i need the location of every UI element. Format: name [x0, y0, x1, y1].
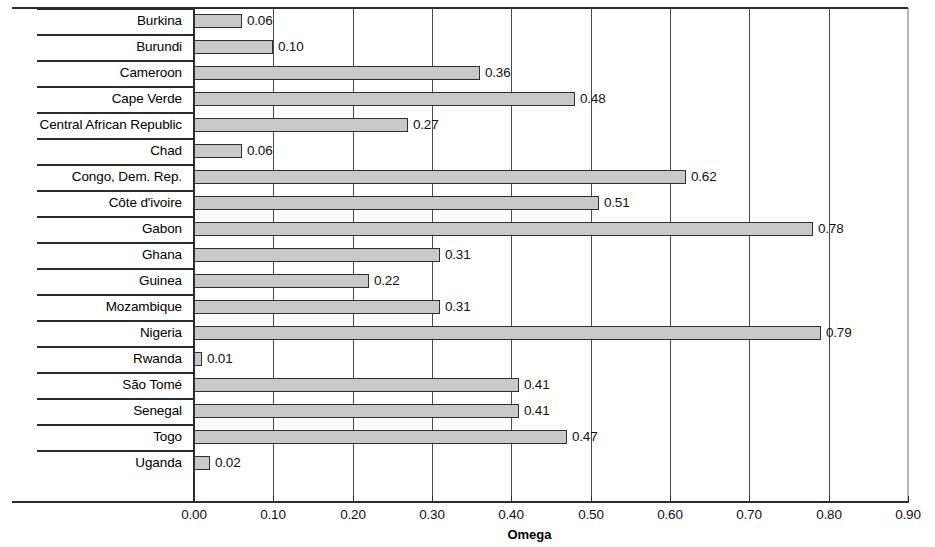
bar: [194, 456, 210, 470]
bar: [194, 144, 242, 158]
category-label: São Tomé: [0, 372, 182, 398]
bar-row: Congo, Dem. Rep.0.62: [0, 164, 935, 190]
bar-value-label: 0.62: [686, 164, 716, 190]
bar-row: Cameroon0.36: [0, 60, 935, 86]
bar: [194, 404, 519, 418]
category-label: Ghana: [0, 242, 182, 268]
bar: [194, 274, 369, 288]
x-axis-tick-label: 0.00: [159, 507, 229, 522]
bar-row: Uganda0.02: [0, 450, 935, 476]
x-axis-tick: [670, 496, 671, 503]
category-label: Cape Verde: [0, 86, 182, 112]
category-label: Burkina: [0, 8, 182, 34]
bar-row: Burkina0.06: [0, 8, 935, 34]
x-axis-title-text: Omega: [507, 527, 551, 542]
bar: [194, 430, 567, 444]
category-label: Congo, Dem. Rep.: [0, 164, 182, 190]
x-axis-tick: [749, 496, 750, 503]
bar-row: Togo0.47: [0, 424, 935, 450]
bar-row: Côte d'ivoire0.51: [0, 190, 935, 216]
bar-value-label: 0.27: [408, 112, 438, 138]
bar-row: Central African Republic0.27: [0, 112, 935, 138]
category-label: Senegal: [0, 398, 182, 424]
x-axis-tick-label: 0.60: [635, 507, 705, 522]
category-label: Guinea: [0, 268, 182, 294]
bar: [194, 170, 686, 184]
category-label: Togo: [0, 424, 182, 450]
x-axis-tick-label: 0.40: [476, 507, 546, 522]
x-axis-tick-label: 0.70: [714, 507, 784, 522]
x-axis-tick: [273, 496, 274, 503]
bar-row: Rwanda0.01: [0, 346, 935, 372]
bar-value-label: 0.36: [480, 60, 510, 86]
bar-row: Chad0.06: [0, 138, 935, 164]
bar: [194, 248, 440, 262]
bar-row: Senegal0.41: [0, 398, 935, 424]
bar-row: Guinea0.22: [0, 268, 935, 294]
x-axis-tick-label: 0.90: [873, 507, 935, 522]
bar-value-label: 0.79: [821, 320, 851, 346]
bar-value-label: 0.48: [575, 86, 605, 112]
bar-row: Mozambique0.31: [0, 294, 935, 320]
x-axis-title: Omega: [0, 527, 935, 542]
x-axis-tick: [591, 496, 592, 503]
bar-row: Burundi0.10: [0, 34, 935, 60]
x-axis-tick: [829, 496, 830, 503]
x-axis-tick: [194, 496, 195, 503]
bar-value-label: 0.31: [440, 242, 470, 268]
bar-value-label: 0.06: [242, 8, 272, 34]
category-label: Gabon: [0, 216, 182, 242]
category-label: Burundi: [0, 34, 182, 60]
category-label: Cameroon: [0, 60, 182, 86]
category-label: Uganda: [0, 450, 182, 476]
bar-row: São Tomé0.41: [0, 372, 935, 398]
bar-row: Ghana0.31: [0, 242, 935, 268]
bar: [194, 118, 408, 132]
x-axis-tick-label: 0.20: [318, 507, 388, 522]
x-axis-tick-label: 0.80: [794, 507, 864, 522]
x-axis-tick: [908, 496, 909, 503]
bar-value-label: 0.01: [202, 346, 232, 372]
bar-row: Nigeria0.79: [0, 320, 935, 346]
category-label: Nigeria: [0, 320, 182, 346]
bar: [194, 300, 440, 314]
bar-value-label: 0.41: [519, 398, 549, 424]
x-axis-tick-label: 0.50: [556, 507, 626, 522]
bar: [194, 378, 519, 392]
category-label: Rwanda: [0, 346, 182, 372]
bar-value-label: 0.31: [440, 294, 470, 320]
bar-value-label: 0.51: [599, 190, 629, 216]
bar: [194, 40, 273, 54]
x-axis-tick-label: 0.10: [238, 507, 308, 522]
bar: [194, 326, 821, 340]
bar-row: Cape Verde0.48: [0, 86, 935, 112]
bar-chart: 0.000.100.200.300.400.500.600.700.800.90…: [0, 0, 935, 547]
x-axis-tick-label: 0.30: [397, 507, 467, 522]
bar: [194, 14, 242, 28]
category-label: Chad: [0, 138, 182, 164]
bottom-axis-rule: [12, 501, 908, 503]
x-axis-tick: [432, 496, 433, 503]
x-axis-tick: [511, 496, 512, 503]
x-axis-tick: [353, 496, 354, 503]
bar: [194, 352, 202, 366]
category-label: Mozambique: [0, 294, 182, 320]
bar: [194, 66, 480, 80]
bar-value-label: 0.02: [210, 450, 240, 476]
bar: [194, 222, 813, 236]
bar: [194, 196, 599, 210]
bar-value-label: 0.47: [567, 424, 597, 450]
category-label: Côte d'ivoire: [0, 190, 182, 216]
category-label: Central African Republic: [0, 112, 182, 138]
bar-value-label: 0.10: [273, 34, 303, 60]
bar: [194, 92, 575, 106]
bar-value-label: 0.41: [519, 372, 549, 398]
bar-value-label: 0.22: [369, 268, 399, 294]
bar-value-label: 0.06: [242, 138, 272, 164]
bar-value-label: 0.78: [813, 216, 843, 242]
bar-row: Gabon0.78: [0, 216, 935, 242]
